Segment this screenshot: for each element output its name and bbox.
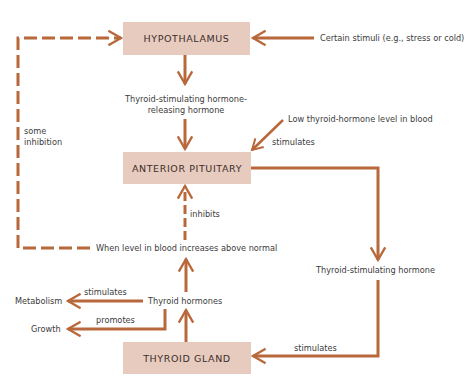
thyroid-hormones-label: Thyroid hormones [148,296,222,307]
anterior-pituitary-box: ANTERIOR PITUITARY [123,152,251,184]
stimulates-pituitary-label: stimulates [272,137,315,148]
hypothalamus-box: HYPOTHALAMUS [123,22,250,55]
tsh-label: Thyroid-stimulating hormone [316,265,435,276]
growth-label: Growth [31,324,61,335]
level-increase-label: When level in blood increases above norm… [96,243,277,254]
low-level-label: Low thyroid-hormone level in blood [288,114,433,125]
thyroid-gland-label: THYROID GLAND [143,353,231,364]
certain-stimuli-label: Certain stimuli (e.g., stress or cold) [320,33,464,44]
promotes-label: promotes [96,315,135,326]
connector-layer [0,0,475,379]
some-inhibition-label-line1: some [24,126,46,137]
trh-label-line2: releasing hormone [115,105,257,116]
metabolism-label: Metabolism [15,296,62,307]
some-inhibition-label-line2: inhibition [24,137,62,148]
trh-label-line1: Thyroid-stimulating hormone- [115,94,257,105]
inhibits-label: inhibits [190,209,220,220]
hypothalamus-label: HYPOTHALAMUS [144,33,230,44]
anterior-pituitary-label: ANTERIOR PITUITARY [132,163,242,174]
stimulates-metabolism-label: stimulates [84,287,127,298]
stimulates-gland-label: stimulates [294,343,337,354]
thyroid-gland-box: THYROID GLAND [123,342,251,374]
